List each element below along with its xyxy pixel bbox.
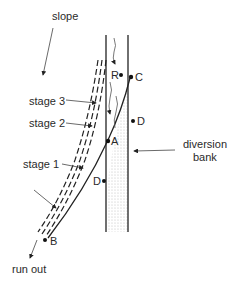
stage-3-dashed-line [38, 60, 98, 232]
stage-2-dashed-line [42, 60, 102, 234]
point-C-label: C [135, 71, 143, 83]
point-B-label: B [50, 235, 57, 247]
point-D-upper-label: D [137, 115, 145, 127]
diversion-bank-label-line1: diversion [183, 138, 227, 150]
point-D-lower-label: D [93, 175, 101, 187]
run-out-arrow [30, 240, 37, 258]
diversion-bank-shade [108, 80, 128, 232]
flow-arrow-icon [109, 82, 112, 114]
point-C-dot [129, 75, 133, 79]
slope-arrow [43, 28, 53, 75]
run-out-label: run out [12, 263, 46, 275]
point-R-dot [119, 73, 123, 77]
point-B-dot [43, 238, 47, 242]
diversion-bank-label-line2: bank [193, 151, 217, 163]
stage-2-leader [66, 123, 92, 126]
point-D-lower-dot [102, 179, 106, 183]
bank-stage-leader [34, 190, 56, 208]
slope-label: slope [52, 10, 78, 22]
point-A-dot [106, 139, 110, 143]
stage-1-dashed-line [46, 60, 106, 236]
stage-3-label: stage 3 [29, 95, 65, 107]
point-R-label: R [111, 69, 119, 81]
stage-2-label: stage 2 [29, 117, 65, 129]
flow-arrow-icon [113, 38, 115, 64]
diversion-bank-leader [134, 150, 175, 151]
stage-1-label: stage 1 [23, 158, 59, 170]
point-D-upper-dot [131, 119, 135, 123]
point-A-label: A [111, 135, 118, 147]
